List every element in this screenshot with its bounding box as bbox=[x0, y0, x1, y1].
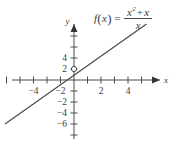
numerator-second-term: x bbox=[144, 6, 149, 18]
x-tick-label-neg4: −4 bbox=[28, 86, 38, 96]
equation-fraction: x2+x x bbox=[124, 6, 152, 31]
function-equation-label: f(x)= x2+x x bbox=[94, 6, 152, 31]
graph-figure: −4 −2 2 4 4 2 −2 −4 −6 x y f(x)= x2+x x bbox=[0, 0, 181, 143]
equation-equals-sign: = bbox=[114, 13, 120, 24]
equation-paren-close: ) bbox=[107, 12, 111, 25]
x-axis-label: x bbox=[163, 75, 168, 85]
x-axis-arrowhead bbox=[152, 77, 160, 84]
y-axis-arrowhead bbox=[71, 24, 78, 32]
equation-denominator: x bbox=[133, 19, 144, 31]
x-tick-label-pos4: 4 bbox=[126, 86, 131, 96]
y-tick-label-pos2: 2 bbox=[62, 64, 67, 74]
coordinate-plane: −4 −2 2 4 4 2 −2 −4 −6 x y bbox=[0, 0, 181, 143]
y-axis-label: y bbox=[65, 16, 70, 26]
removable-discontinuity-open-circle bbox=[71, 66, 76, 71]
y-tick-label-neg6: −6 bbox=[57, 119, 67, 129]
equation-numerator: x2+x bbox=[124, 6, 152, 18]
function-line bbox=[5, 24, 147, 124]
x-tick-label-pos2: 2 bbox=[99, 86, 104, 96]
y-tick-label-neg4: −4 bbox=[57, 108, 67, 118]
equation-argument: x bbox=[102, 13, 107, 24]
y-tick-label-neg2: −2 bbox=[57, 97, 67, 107]
numerator-exponent: 2 bbox=[132, 5, 136, 13]
y-tick-label-pos4: 4 bbox=[62, 53, 67, 63]
numerator-plus-sign: + bbox=[137, 6, 143, 18]
